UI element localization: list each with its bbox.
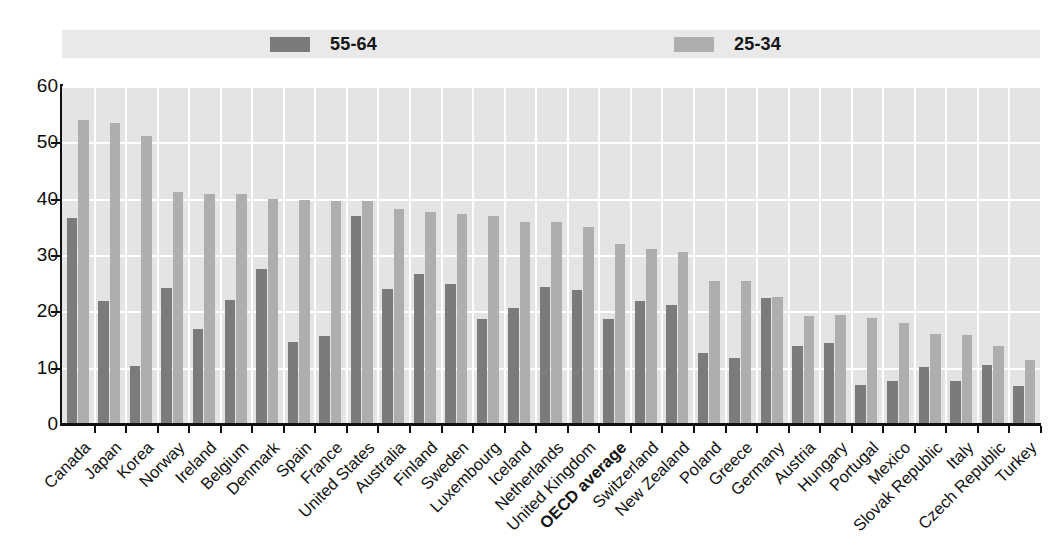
x-axis-labels: CanadaJapanKoreaNorwayIrelandBelgiumDenm… (0, 0, 1056, 560)
chart-container: 55-6425-34 6050403020100 CanadaJapanKore… (0, 0, 1056, 560)
